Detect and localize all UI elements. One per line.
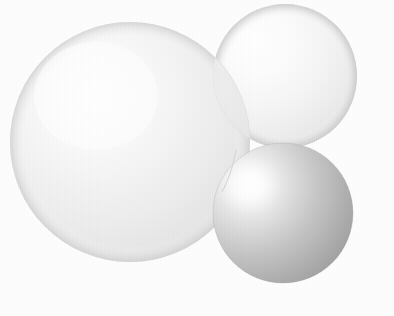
sphere-render-canvas <box>0 0 394 316</box>
spheres-svg <box>0 0 394 316</box>
